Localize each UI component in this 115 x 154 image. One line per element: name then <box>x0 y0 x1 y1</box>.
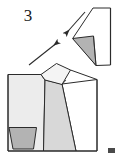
diagram-canvas: 3 <box>0 0 115 154</box>
step-number-label: 3 <box>24 6 33 25</box>
origami-step-figure: 3 <box>0 0 115 154</box>
bottom-right-corner-mark <box>108 148 115 153</box>
lower-dark-trapezoid <box>9 128 37 150</box>
